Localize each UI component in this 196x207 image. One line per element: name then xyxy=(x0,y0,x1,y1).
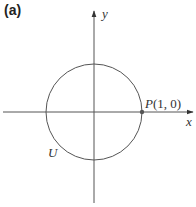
circle-label: U xyxy=(48,145,59,160)
x-axis-label: x xyxy=(185,114,192,129)
panel-label: (a) xyxy=(4,2,21,18)
y-axis-label: y xyxy=(100,6,108,21)
point-p-name: P xyxy=(144,96,153,111)
point-p-label: P(1, 0) xyxy=(144,96,181,111)
point-p-coords: (1, 0) xyxy=(153,96,181,111)
point-p-marker xyxy=(140,110,144,114)
unit-circle-diagram: (a) y x U P(1, 0) xyxy=(0,0,196,207)
